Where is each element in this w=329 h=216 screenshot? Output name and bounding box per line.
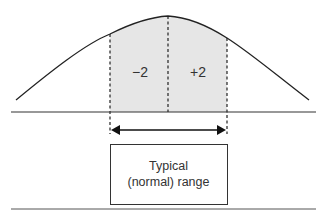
range-box-line1: Typical [149,158,188,174]
region-label-minus-2: −2 [125,64,155,80]
region-label-plus-2: +2 [183,64,213,80]
range-box-text: Typical (normal) range [110,144,227,204]
arrowhead-left-icon [111,125,120,135]
range-box-line2: (normal) range [128,174,210,190]
arrowhead-right-icon [217,125,226,135]
